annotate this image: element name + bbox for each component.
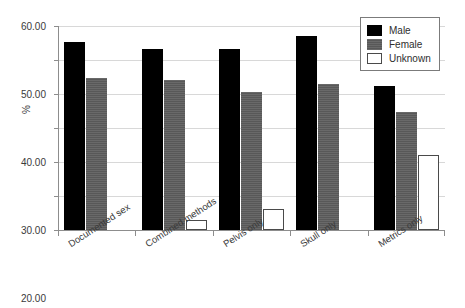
legend-item-unknown[interactable]: Unknown [367,51,431,65]
bar-male-4 [374,86,395,231]
legend-swatch-male-icon [367,25,382,36]
bar-female-0 [86,78,107,230]
legend-swatch-female-icon [367,39,382,50]
legend-label: Male [389,25,411,36]
y-axis-line [58,26,59,231]
x-tick-mark [444,231,445,236]
bar-male-3 [296,36,317,230]
y-tick-label: 20.00 [21,293,46,304]
legend-label: Female [389,39,422,50]
legend-item-male[interactable]: Male [367,23,431,37]
bar-female-4 [396,112,417,230]
legend-item-female[interactable]: Female [367,37,431,51]
bar-male-2 [219,49,240,230]
bar-female-1 [164,80,185,230]
x-tick-mark [213,231,214,236]
y-tick-label: 40.00 [21,157,46,168]
bar-unknown-2 [263,209,284,230]
bar-male-1 [142,49,163,230]
y-tick-label: 30.00 [21,225,46,236]
bar-female-2 [241,92,262,230]
x-tick-mark [368,231,369,236]
y-axis-title: % [21,98,32,122]
legend: MaleFemaleUnknown [360,17,440,71]
x-tick-mark [58,231,59,236]
legend-swatch-unknown-icon [367,53,382,64]
bar-chart: % 0.0010.0020.0030.0040.0050.0060.00 Doc… [0,0,465,308]
y-tick-label: 60.00 [21,21,46,32]
bar-male-0 [64,42,85,230]
bar-female-3 [318,84,339,230]
y-tick-label: 50.00 [21,89,46,100]
legend-label: Unknown [389,53,431,64]
x-tick-mark [290,231,291,236]
x-tick-mark [135,231,136,236]
